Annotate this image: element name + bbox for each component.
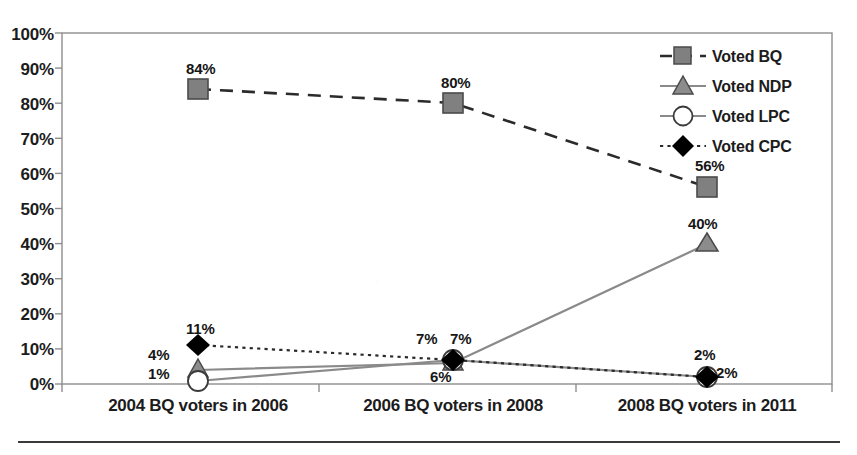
series-voted-bq [188,79,717,197]
chart-canvas [0,0,857,455]
legend [660,47,706,157]
legend-key-cpc[interactable] [660,135,706,157]
legend-marker-circle-icon [674,107,693,126]
legend-key-ndp[interactable] [660,76,706,94]
chart-figure: 100% 90% 80% 70% 60% 50% 40% 30% 20% 10%… [0,0,857,455]
marker-bq-2008 [443,93,463,113]
marker-cpc-2006 [186,334,210,356]
series-voted-cpc [186,334,719,388]
marker-bq-2011 [697,177,717,197]
x-axis-ticks [62,384,832,392]
legend-marker-square-icon [674,47,691,64]
marker-ndp-2011 [696,233,718,251]
marker-bq-2006 [188,79,208,99]
y-axis-ticks [55,33,62,384]
plot-area-frame [62,33,832,384]
marker-cpc-2011 [695,366,719,388]
marker-lpc-2006 [188,371,208,391]
legend-key-bq[interactable] [660,47,706,64]
legend-key-lpc[interactable] [660,107,706,126]
legend-marker-diamond-icon [672,135,694,157]
